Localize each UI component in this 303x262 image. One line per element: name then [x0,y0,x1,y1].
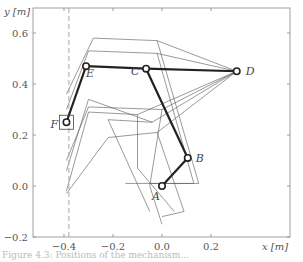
joint-F [63,119,69,125]
x-tick-label: 0.2 [203,241,219,252]
joint-A [159,183,165,189]
y-tick-label: −0.2 [4,232,28,243]
joint-C [143,66,149,72]
x-axis-ticks: −0.4−0.20.00.2 [52,8,219,252]
link-CD [146,69,237,72]
joint-label-F: F [49,118,58,131]
y-tick-label: 0.6 [12,28,28,39]
joint-label-C: C [131,65,140,78]
joint-B [185,155,191,161]
joint-label-A: A [151,190,160,203]
joint-label-B: B [195,152,204,165]
x-axis-label: x [m] [262,241,288,252]
y-axis-ticks: −0.20.00.20.40.6 [4,28,290,243]
joint-label-D: D [245,65,255,78]
joint-D [234,68,240,74]
y-tick-label: 0.0 [12,181,28,192]
joint-label-E: E [85,67,94,80]
figure-caption: Figure 4.3: Positions of the mechanism..… [2,250,189,260]
mechanism-plot: −0.20.00.20.40.6 −0.4−0.20.00.2 ABCDEF y… [0,0,303,262]
ghost-linkage [66,38,236,183]
link-BC [146,69,188,158]
link-AB [162,158,188,186]
y-tick-label: 0.2 [12,130,28,141]
y-axis-label: y [m] [3,6,30,17]
y-tick-label: 0.4 [12,79,28,90]
